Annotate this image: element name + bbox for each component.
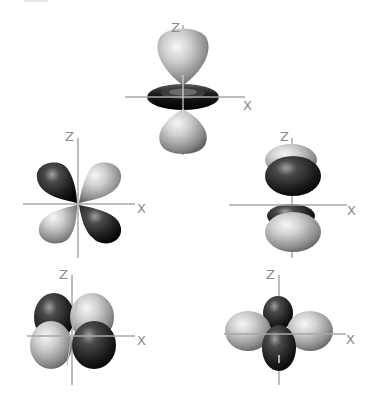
orbital-dxy: Z X (25, 265, 155, 390)
lobe-front-right (72, 321, 116, 369)
lobe-upper-right (79, 163, 121, 203)
lobe-lower-right (79, 205, 121, 243)
lobe-front (262, 325, 296, 371)
z-axis-label: Z (171, 21, 180, 34)
x-axis-label: X (137, 334, 146, 347)
dx2y2-graphic (222, 265, 362, 390)
lobe-front-left (30, 321, 72, 369)
x-axis-label: X (137, 202, 146, 215)
orbital-dyz: Z X (225, 128, 365, 263)
z-axis-label: Z (280, 130, 289, 143)
lobe-lower-left (39, 205, 77, 243)
z-axis-label: Z (266, 268, 275, 281)
top-edge-artifact (24, 0, 48, 2)
lobe-front-upper (265, 156, 321, 196)
dxy-graphic (25, 265, 155, 390)
z-axis-label: Z (59, 268, 68, 281)
dyz-graphic (225, 128, 365, 263)
z-axis-label: Z (65, 130, 74, 143)
orbital-dxz: Z X (15, 128, 155, 263)
orbital-dx2-y2: Z X (222, 265, 362, 390)
x-axis-label: X (243, 99, 252, 112)
x-axis-label: X (346, 333, 355, 346)
lobe-upper-left (37, 163, 77, 203)
dxz-graphic (15, 128, 155, 263)
lobe-front-lower (265, 212, 321, 252)
x-axis-label: X (347, 204, 356, 217)
